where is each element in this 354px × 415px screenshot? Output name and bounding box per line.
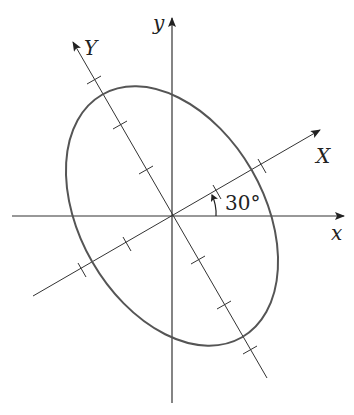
Y-axis-label: Y: [84, 36, 99, 60]
y-axis-label: y: [152, 11, 165, 35]
x-axis-label: x: [331, 221, 342, 245]
angle-arc: [212, 195, 216, 216]
X-axis-label: X: [314, 144, 331, 168]
rotated-axes-diagram: y x X Y 30°: [0, 0, 354, 415]
angle-label: 30°: [225, 191, 260, 215]
